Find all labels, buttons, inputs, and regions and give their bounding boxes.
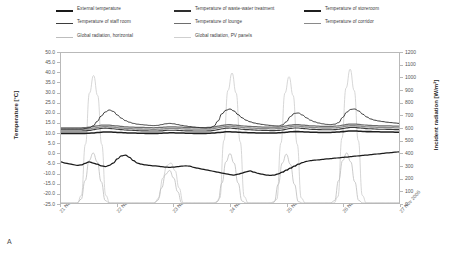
y-axis-right-tick-mark [400,141,403,142]
legend-item-global-radiation-horizontal: Global radiation, horizontal [56,33,174,39]
y-axis-right-tick-label: 500 [405,138,431,143]
y-axis-right-tick-mark [400,179,403,180]
y-axis-right-tick-mark [400,52,403,53]
plot-svg [61,53,399,203]
x-axis-tick-mark [343,204,344,207]
plot-area [60,52,400,204]
y-axis-left-tick-label: 50.0 [29,50,55,55]
x-axis-tick-mark [117,204,118,207]
legend-swatch-icon [56,23,73,24]
y-axis-right-tick-mark [400,65,403,66]
y-axis-left-tick-label: 25.0 [29,100,55,105]
y-axis-left-tick-label: 5.0 [29,141,55,146]
x-axis-tick-mark [230,204,231,207]
legend-item-waste-water-treatment: Temperature of waste-water treatment [174,6,304,12]
legend-item-global-radiation-pv-panels: Global radiation, PV panels [174,33,314,39]
x-axis-tick-mark [60,204,61,207]
legend-swatch-icon [174,10,191,12]
y-axis-right-tick-mark [400,115,403,116]
chart-legend: External temperature Temperature of wast… [56,6,438,46]
legend-item-corridor: Temperature of corridor [304,19,438,25]
legend-label: Temperature of corridor [325,19,374,25]
legend-label: Global radiation, horizontal [77,33,133,39]
y-axis-left-tick-label: -5.0 [29,161,55,166]
legend-swatch-icon [56,10,73,12]
legend-swatch-icon [304,23,321,24]
legend-label: Temperature of staff room [77,19,131,25]
y-axis-left-tick-label: -25.0 [29,202,55,207]
legend-swatch-icon [174,37,191,38]
y-axis-right-tick-label: 200 [405,176,431,181]
y-axis-right-tick-mark [400,191,403,192]
legend-label: Temperature of waste-water treatment [195,6,274,12]
y-axis-right-tick-label: 1200 [405,50,431,55]
legend-label: Global radiation, PV panels [195,33,252,39]
x-axis-tick-mark [400,204,401,207]
y-axis-right-tick-mark [400,90,403,91]
y-axis-right-tick-mark [400,128,403,129]
legend-item-lounge: Temperature of lounge [174,19,304,25]
y-axis-right-tick-label: 800 [405,100,431,105]
y-axis-right-tick-label: 600 [405,126,431,131]
y-axis-right-tick-mark [400,77,403,78]
y-axis-right-tick-label: 900 [405,88,431,93]
legend-item-staff-room: Temperature of staff room [56,19,174,25]
y-axis-left-title: Temperature [°C] [13,75,19,155]
y-axis-left-tick-label: -20.0 [29,191,55,196]
y-axis-right-tick-label: 700 [405,113,431,118]
y-axis-right-tick-label: 1000 [405,75,431,80]
legend-item-external-temperature: External temperature [56,6,174,12]
y-axis-right-tick-mark [400,153,403,154]
y-axis-right-tick-label: 400 [405,151,431,156]
panel-letter: A [7,238,12,245]
series-line [61,153,399,203]
legend-label: Temperature of storeroom [325,6,379,12]
y-axis-right-tick-mark [400,166,403,167]
series-line [61,131,399,133]
y-axis-right-title: Incident radiation [W/m²] [433,75,439,155]
x-axis-tick-mark [287,204,288,207]
y-axis-right-tick-label: 300 [405,164,431,169]
legend-item-storeroom: Temperature of storeroom [304,6,438,12]
y-axis-left-tick-label: 45.0 [29,60,55,65]
y-axis-left-tick-label: 40.0 [29,70,55,75]
y-axis-left-tick-label: -10.0 [29,171,55,176]
series-line [61,69,399,203]
y-axis-left-tick-label: 35.0 [29,80,55,85]
y-axis-right-tick-mark [400,103,403,104]
y-axis-left-tick-label: 0.0 [29,151,55,156]
x-axis-tick-mark [173,204,174,207]
y-axis-left-tick-label: 15.0 [29,120,55,125]
chart-figure: External temperature Temperature of wast… [0,0,451,260]
y-axis-left-tick-label: 10.0 [29,131,55,136]
legend-swatch-icon [304,10,321,12]
legend-swatch-icon [174,23,191,24]
y-axis-left-tick-label: 20.0 [29,110,55,115]
y-axis-left-tick-label: 30.0 [29,90,55,95]
y-axis-left-tick-label: -15.0 [29,181,55,186]
legend-label: External temperature [77,6,121,12]
legend-swatch-icon [56,37,73,38]
y-axis-right-tick-label: 1100 [405,62,431,67]
legend-label: Temperature of lounge [195,19,242,25]
